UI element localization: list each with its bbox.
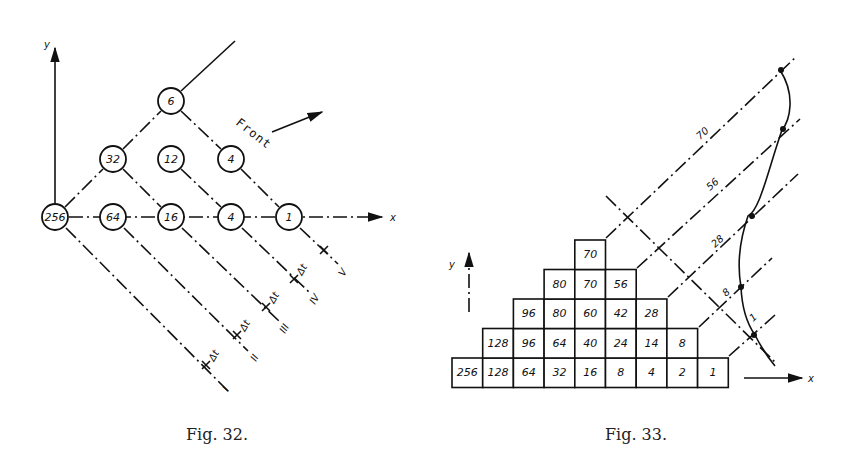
cell-value: 14: [645, 337, 659, 350]
cell-value: 256: [457, 366, 478, 379]
node: 32: [100, 146, 126, 172]
line-label-I: I: [220, 385, 231, 393]
delta-label-II: Δt: [237, 317, 253, 334]
node-value: 256: [45, 211, 66, 224]
node-group: 256641641321246: [42, 88, 302, 230]
cell-value: 56: [614, 278, 628, 291]
x-axis-label: x: [389, 212, 396, 223]
node-value: 4: [228, 153, 235, 166]
figure-32: y x Δt Δt Δt Δt I II III IV: [42, 39, 396, 444]
fig32-caption: Fig. 32.: [186, 425, 248, 444]
line-label-IV: IV: [307, 291, 322, 306]
cell-value: 80: [552, 278, 566, 291]
cell-value: 64: [552, 337, 566, 350]
cell-value: 8: [679, 337, 686, 350]
diag-label-1: 1: [747, 311, 759, 323]
line-label-III: III: [277, 322, 291, 335]
cell-value: 128: [488, 366, 509, 379]
cell-value: 2: [679, 366, 686, 379]
cell-value: 28: [645, 307, 659, 320]
diag-up-2: [123, 111, 161, 149]
node-value: 16: [164, 211, 178, 224]
cell-value: 64: [522, 366, 536, 379]
node: 12: [158, 146, 184, 172]
figure-33: y x 70 56 28 8 1 25612864321684211289664…: [448, 56, 814, 444]
link-12-4: [181, 169, 221, 207]
fig33-caption: Fig. 33.: [605, 425, 667, 444]
node-value: 4: [228, 211, 235, 224]
cell-value: 70: [583, 278, 597, 291]
node: 64: [100, 204, 126, 230]
cell-value: 24: [614, 337, 628, 350]
node: 4: [218, 146, 244, 172]
y-axis-label: y: [43, 39, 51, 50]
node: 256: [42, 204, 68, 230]
curve-points: [738, 67, 786, 338]
cell-pyramid: 2561286432168421128966440241489680604228…: [452, 240, 728, 388]
line-label-II: II: [248, 352, 261, 363]
delta-label-I: Δt: [206, 347, 222, 364]
node-value: 64: [106, 211, 120, 224]
delta-label-IV: Δt: [294, 261, 310, 278]
cell-value: 60: [583, 307, 597, 320]
line-label-V: V: [336, 266, 350, 278]
node: 1: [276, 204, 302, 230]
delta-label-III: Δt: [266, 289, 282, 306]
node-value: 6: [168, 95, 175, 108]
diag-label-70: 70: [694, 125, 711, 142]
diag-label-28: 28: [709, 233, 726, 250]
link-6-4: [181, 111, 221, 149]
diag-label-56: 56: [704, 176, 721, 193]
cell-value: 16: [583, 366, 597, 379]
front-label: Front: [233, 115, 274, 151]
diag-28: [668, 174, 798, 297]
cell-value: 96: [522, 307, 536, 320]
cell-value: 4: [648, 366, 655, 379]
cell-value: 40: [583, 337, 597, 350]
diag-up-3: [181, 41, 235, 91]
node: 4: [218, 204, 244, 230]
cell-value: 8: [617, 366, 624, 379]
cell-value: 128: [488, 337, 509, 350]
diag-8: [699, 258, 772, 327]
node-value: 1: [286, 211, 293, 224]
line-IV: [242, 228, 309, 292]
cell-value: 96: [522, 337, 536, 350]
cell-value: 80: [552, 307, 566, 320]
cell-value: 70: [583, 248, 597, 261]
node-value: 12: [164, 153, 178, 166]
cell-value: 32: [552, 366, 566, 379]
link-4-1: [241, 169, 279, 207]
front-arrow: [272, 112, 322, 132]
node: 6: [158, 88, 184, 114]
result-curve: [739, 70, 790, 366]
y-axis-label: y: [448, 259, 456, 270]
node: 16: [158, 204, 184, 230]
cell-value: 42: [614, 307, 628, 320]
line-V: [300, 228, 338, 264]
diag-up-1: [65, 169, 103, 207]
figure-canvas: y x Δt Δt Δt Δt I II III IV: [0, 0, 852, 464]
cell-value: 1: [709, 366, 716, 379]
x-axis-label: x: [807, 373, 814, 384]
line-II: [124, 228, 248, 351]
link-32-16: [123, 169, 161, 207]
node-value: 32: [106, 153, 120, 166]
